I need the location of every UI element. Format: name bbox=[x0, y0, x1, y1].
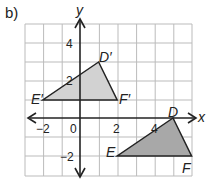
tick-x-2: 2 bbox=[113, 122, 120, 136]
vertex-d: D bbox=[168, 104, 178, 120]
tick-y-2: 2 bbox=[66, 74, 73, 88]
tick-x-0: 0 bbox=[70, 122, 77, 136]
x-axis-label: x bbox=[198, 109, 205, 125]
vertex-e: E bbox=[106, 144, 115, 160]
tick-x-4: 4 bbox=[151, 122, 158, 136]
vertex-d-prime: D′ bbox=[99, 49, 112, 65]
vertex-e-prime: E′ bbox=[31, 91, 43, 107]
tick-x-neg2: −2 bbox=[36, 122, 50, 136]
vertex-f-prime: F′ bbox=[119, 91, 130, 107]
y-axis-label: y bbox=[76, 2, 83, 18]
vertex-f: F bbox=[182, 160, 191, 176]
tick-y-neg2: −2 bbox=[60, 150, 74, 164]
tick-y-4: 4 bbox=[66, 37, 73, 51]
